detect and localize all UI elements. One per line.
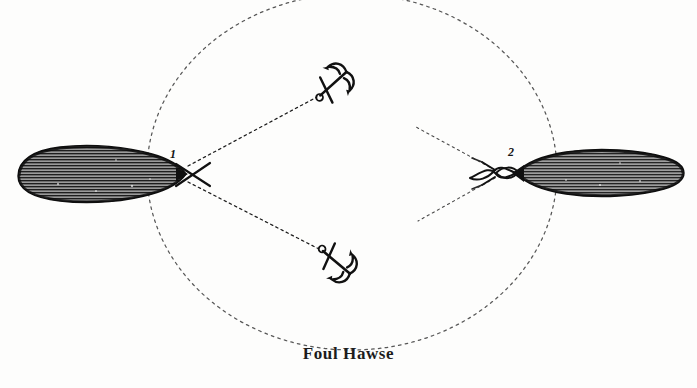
cable-ship1-to-lower-anchor	[188, 182, 319, 249]
foul-hawse-figure: 1 2 Foul Hawse	[0, 0, 697, 388]
anchor-upper	[304, 57, 360, 113]
cables-ship-1	[188, 97, 319, 249]
foul-hawse-elbow-ship-2	[470, 158, 518, 189]
swinging-circle	[147, 0, 557, 350]
ship-right	[512, 150, 684, 197]
vessel-label-2: 2	[508, 145, 514, 160]
figure-canvas	[0, 0, 697, 388]
anchor-lower	[307, 233, 363, 289]
ship-left-hull	[18, 145, 186, 202]
cable-ship1-to-upper-anchor	[188, 97, 317, 166]
figure-caption: Foul Hawse	[0, 344, 697, 364]
ship-left	[18, 145, 188, 202]
vessel-label-1: 1	[170, 147, 176, 162]
cables-ship-2	[416, 127, 495, 221]
